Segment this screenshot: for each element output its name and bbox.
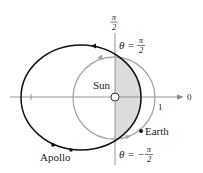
earth-orbit-arrow-icon: [97, 55, 103, 60]
polar-axis-arrow-icon: [177, 95, 184, 100]
sun-label: Sun: [93, 79, 111, 91]
polar-axis-zero-label: 0: [187, 92, 192, 102]
apollo-label: Apollo: [40, 151, 71, 163]
earth-label: Earth: [145, 125, 169, 137]
apollo-orbit-arrow-icon: [91, 44, 96, 49]
top-axis-label-den: 2: [112, 22, 117, 32]
top-axis-label-num: π: [112, 12, 117, 22]
apollo-dot: [51, 143, 55, 147]
sun-icon: [111, 93, 119, 101]
theta-bottom-lhs: θ = −: [119, 148, 145, 160]
theta-bottom-num: π: [147, 144, 152, 154]
theta-top-num: π: [139, 35, 144, 45]
diagram-canvas: Sun Earth Apollo 0 1 π 2 θ = π 2 θ = − π…: [0, 0, 203, 173]
earth-dot: [139, 129, 143, 133]
theta-top-lhs: θ =: [119, 39, 135, 51]
theta-bottom-den: 2: [147, 154, 152, 164]
polar-orbit-diagram: Sun Earth Apollo 0 1 π 2 θ = π 2 θ = − π…: [0, 0, 203, 173]
unit-tick-label: 1: [158, 102, 163, 112]
theta-top-den: 2: [139, 45, 144, 55]
